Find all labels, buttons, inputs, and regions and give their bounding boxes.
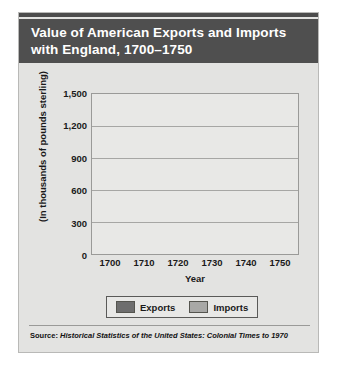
- y-axis-ticks: 1,500 1,200 900 600 300 0: [45, 93, 87, 255]
- x-tick-1710: 1710: [130, 257, 158, 268]
- plot-area: [91, 93, 299, 255]
- legend-item-exports: Exports: [116, 301, 175, 313]
- source-label: Source:: [30, 331, 58, 340]
- page-title: Value of American Exports and Imports wi…: [31, 24, 306, 58]
- bar-groups: [92, 94, 298, 254]
- legend-label-imports: Imports: [213, 302, 248, 313]
- legend-swatch-imports-icon: [189, 301, 208, 313]
- title-top-rule: [19, 13, 318, 17]
- x-tick-1720: 1720: [164, 257, 192, 268]
- y-tick-300: 300: [45, 217, 87, 228]
- source-text: Historical Statistics of the United Stat…: [60, 331, 288, 340]
- chart-legend: Exports Imports: [106, 296, 258, 318]
- chart-plot-region: (In thousands of pounds sterling) 1,500 …: [19, 63, 318, 325]
- y-tick-1500: 1,500: [45, 88, 87, 99]
- y-tick-1200: 1,200: [45, 120, 87, 131]
- legend-item-imports: Imports: [189, 301, 248, 313]
- x-tick-1750: 1750: [266, 257, 294, 268]
- source-note: Source: Historical Statistics of the Uni…: [30, 331, 310, 340]
- legend-swatch-exports-icon: [116, 301, 135, 313]
- x-tick-1700: 1700: [96, 257, 124, 268]
- y-tick-900: 900: [45, 152, 87, 163]
- y-tick-600: 600: [45, 185, 87, 196]
- y-tick-0: 0: [45, 250, 87, 261]
- x-tick-1740: 1740: [232, 257, 260, 268]
- legend-label-exports: Exports: [140, 302, 175, 313]
- x-axis-label: Year: [91, 273, 299, 284]
- x-axis-ticks: 1700 1710 1720 1730 1740 1750: [91, 257, 299, 268]
- chart-title-bar: Value of American Exports and Imports wi…: [19, 19, 318, 63]
- x-tick-1730: 1730: [198, 257, 226, 268]
- source-divider: [29, 325, 310, 326]
- chart-figure: Value of American Exports and Imports wi…: [18, 12, 319, 353]
